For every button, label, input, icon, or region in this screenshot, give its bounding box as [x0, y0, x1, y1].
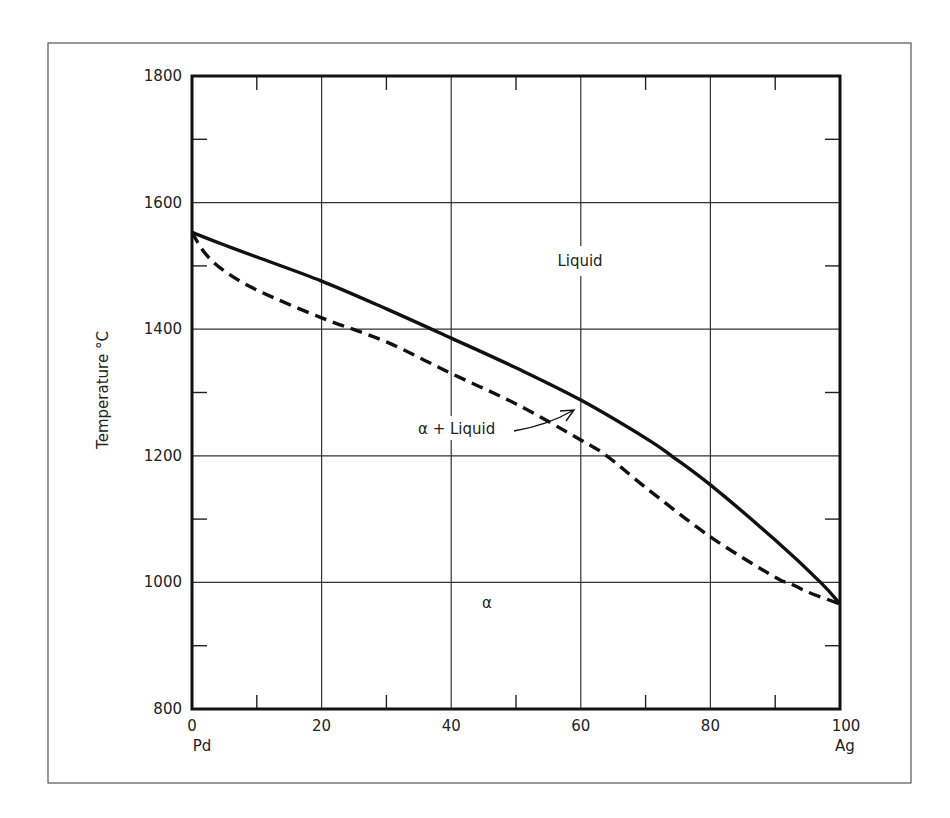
y-axis-title: Temperature °C	[94, 331, 112, 450]
phase-diagram: 020406080100 80010001200140016001800 Pd …	[0, 0, 950, 818]
x-right-element-label: Ag	[835, 737, 855, 755]
region-label-alpha: α	[482, 594, 492, 612]
x-tick-label: 40	[442, 717, 461, 735]
phase-curves	[192, 232, 840, 604]
grid-lines	[192, 76, 840, 709]
y-tick-label: 800	[153, 700, 182, 718]
y-tick-label: 1400	[144, 320, 182, 338]
x-tick-label: 20	[312, 717, 331, 735]
liquidus-curve	[192, 232, 840, 604]
minor-ticks	[192, 76, 840, 709]
y-tick-label: 1200	[144, 447, 182, 465]
y-tick-label: 1000	[144, 573, 182, 591]
x-tick-label: 0	[187, 717, 197, 735]
y-tick-labels: 80010001200140016001800	[144, 67, 182, 718]
solidus-curve	[192, 232, 840, 604]
plot-border	[192, 76, 840, 709]
y-tick-label: 1600	[144, 194, 182, 212]
outer-frame	[48, 43, 911, 783]
x-tick-labels: 020406080100	[187, 717, 860, 735]
x-tick-label: 100	[832, 717, 861, 735]
x-tick-label: 80	[701, 717, 720, 735]
region-label-alpha-liquid: α + Liquid	[418, 420, 495, 438]
region-label-liquid: Liquid	[557, 252, 602, 270]
x-tick-label: 60	[571, 717, 590, 735]
y-tick-label: 1800	[144, 67, 182, 85]
x-left-element-label: Pd	[193, 737, 212, 755]
